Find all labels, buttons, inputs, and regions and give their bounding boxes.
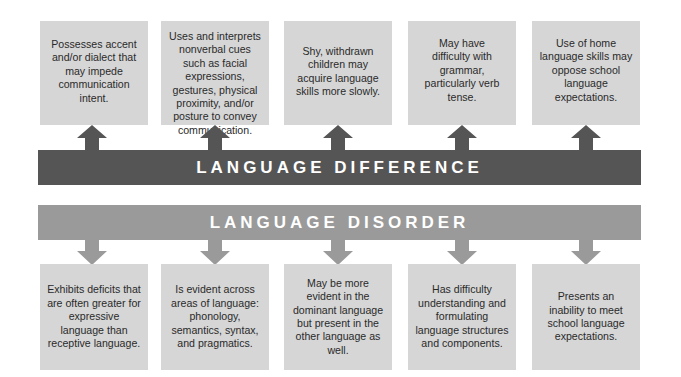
disorder-box-text: Exhibits deficits that are often greater… bbox=[46, 283, 142, 350]
language-difference-label: LANGUAGE DIFFERENCE bbox=[196, 158, 483, 178]
arrow-up-icon bbox=[200, 125, 230, 151]
disorder-box-4: Has difficulty understanding and formula… bbox=[408, 264, 516, 370]
disorder-box-5: Presents an inability to meet school lan… bbox=[532, 264, 640, 370]
arrow-down-icon bbox=[447, 239, 477, 265]
disorder-box-text: May be more evident in the dominant lang… bbox=[290, 277, 386, 357]
disorder-box-text: Is evident across areas of language: pho… bbox=[167, 283, 263, 350]
arrow-up-icon bbox=[323, 125, 353, 151]
difference-box-text: May have difficulty with grammar, partic… bbox=[420, 37, 504, 104]
language-disorder-bar: LANGUAGE DISORDER bbox=[38, 205, 641, 240]
disorder-box-3: May be more evident in the dominant lang… bbox=[284, 264, 392, 370]
arrow-down-icon bbox=[200, 239, 230, 265]
difference-box-4: May have difficulty with grammar, partic… bbox=[408, 21, 516, 125]
arrow-down-icon bbox=[323, 239, 353, 265]
arrow-up-icon bbox=[447, 125, 477, 151]
arrow-down-icon bbox=[77, 239, 107, 265]
difference-box-text: Use of home language skills may oppose s… bbox=[538, 37, 634, 104]
language-difference-bar: LANGUAGE DIFFERENCE bbox=[38, 150, 641, 185]
difference-box-3: Shy, withdrawn children may acquire lang… bbox=[284, 21, 392, 125]
disorder-box-text: Has difficulty understanding and formula… bbox=[414, 283, 510, 350]
arrow-up-icon bbox=[571, 125, 601, 151]
language-disorder-label: LANGUAGE DISORDER bbox=[210, 213, 470, 233]
disorder-box-text: Presents an inability to meet school lan… bbox=[544, 290, 628, 344]
arrow-up-icon bbox=[77, 125, 107, 151]
arrow-down-icon bbox=[571, 239, 601, 265]
disorder-box-2: Is evident across areas of language: pho… bbox=[161, 264, 269, 370]
difference-box-text: Possesses accent and/or dialect that may… bbox=[46, 38, 142, 105]
difference-box-text: Uses and interprets nonverbal cues such … bbox=[167, 30, 263, 137]
difference-box-2: Uses and interprets nonverbal cues such … bbox=[161, 21, 269, 125]
difference-box-5: Use of home language skills may oppose s… bbox=[532, 21, 640, 125]
disorder-box-1: Exhibits deficits that are often greater… bbox=[40, 264, 148, 370]
difference-box-text: Shy, withdrawn children may acquire lang… bbox=[290, 45, 386, 99]
difference-box-1: Possesses accent and/or dialect that may… bbox=[40, 21, 148, 125]
